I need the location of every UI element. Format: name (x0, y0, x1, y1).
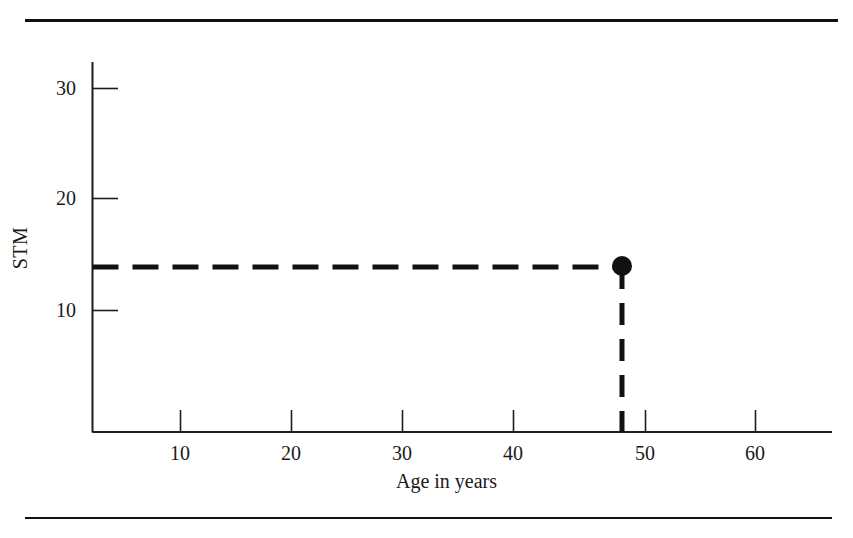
figure-page: 30 20 10 10 20 30 40 50 60 Age in years … (0, 0, 853, 538)
y-axis-ticks (93, 89, 119, 311)
y-axis-title: STM (9, 227, 32, 270)
x-axis-title-text: Age in years (396, 470, 497, 493)
data-point-marker (612, 256, 632, 276)
chart-plot-area: 30 20 10 10 20 30 40 50 60 Age in years … (0, 0, 853, 538)
x-axis-ticks (181, 410, 756, 432)
y-tick-label-20: 20 (30, 188, 76, 208)
x-tick-label-40: 40 (503, 443, 523, 463)
x-axis-title: Age in years (0, 470, 853, 493)
x-tick-label-50: 50 (635, 443, 655, 463)
chart-svg (0, 0, 853, 538)
x-tick-label-20: 20 (281, 443, 301, 463)
y-tick-label-30: 30 (30, 78, 76, 98)
x-tick-label-30: 30 (392, 443, 412, 463)
y-tick-label-10: 10 (30, 300, 76, 320)
x-tick-label-10: 10 (170, 443, 190, 463)
x-tick-label-60: 60 (745, 443, 765, 463)
